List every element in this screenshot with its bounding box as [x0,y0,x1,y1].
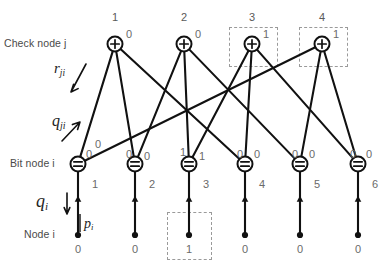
bit-node-index-3: 3 [203,178,209,190]
edge-label-c1-b2: 0 [126,148,132,160]
q-i-sub: i [45,200,48,212]
source-node-value-2: 0 [132,243,138,255]
source-node-5[interactable] [297,232,303,238]
edge-label-c3-b6: 0 [350,148,356,160]
q-i-symbol: qi [36,191,48,212]
source-node-value-4: 0 [242,243,248,255]
edge-label-c2-b5: 0 [292,148,298,160]
bit-node-index-6: 6 [372,178,378,190]
edge-label-c2-b2: 0 [144,150,150,162]
check-node-3[interactable] [245,37,260,52]
check-node-index-4: 4 [319,11,325,23]
check-node-4[interactable] [315,37,330,52]
check-node-value-4: 1 [333,28,339,40]
source-node-4[interactable] [242,232,248,238]
check-node-value-3: 1 [263,28,269,40]
edge-label-c1-b1: 0 [86,148,92,160]
edge-label-c1-b4: 0 [237,148,243,160]
source-node-value-1: 0 [75,243,81,255]
source-node-3[interactable] [186,232,192,238]
q-ji-sub: ji [60,120,66,131]
check-node-index-1: 1 [112,11,118,23]
edge-label-c4-b5: 0 [309,148,315,160]
check-node-1[interactable] [108,37,123,52]
check-node-value-2: 0 [195,28,201,40]
edge-label-c3-b4: 0 [254,148,260,160]
bit-node-3[interactable] [182,157,197,172]
check-node-index-2: 2 [181,11,187,23]
p-i-sub: i [91,222,93,232]
bit-node-row-label: Bit node i [10,157,55,169]
source-node-2[interactable] [132,232,138,238]
bit-node-index-2: 2 [149,178,155,190]
p-i-base: p [84,216,91,231]
bit-node-index-4: 4 [259,178,265,190]
bit-node-1[interactable] [71,157,86,172]
edge-label-c4-b6: 0 [366,148,372,160]
check-node-row-label: Check node j [4,37,67,49]
r-ji-sub: ji [60,68,65,78]
q-ji-symbol: qji [52,112,66,131]
check-node-2[interactable] [177,37,192,52]
edge-label-c3-b3: 1 [199,150,205,162]
source-node-row-label: Node i [24,228,55,240]
q-ji-base: q [52,112,60,129]
source-node-value-5: 0 [297,243,303,255]
check-node-index-3: 3 [249,11,255,23]
source-node-1[interactable] [75,232,81,238]
edge-label-c4-b1: 0 [95,138,101,150]
bit-node-index-1: 1 [92,178,98,190]
tanner-graph-figure: 00001010000010203141123456001000 Check n… [0,0,388,267]
source-node-value-3: 1 [186,243,192,255]
check-node-value-1: 0 [126,28,132,40]
bit-node-index-5: 5 [314,178,320,190]
r-ji-symbol: rji [54,60,65,78]
source-node-value-6: 0 [355,243,361,255]
edge-label-c2-b3: 1 [180,146,186,158]
source-node-6[interactable] [355,232,361,238]
p-i-symbol: pi [84,216,93,232]
q-i-base: q [36,191,45,211]
